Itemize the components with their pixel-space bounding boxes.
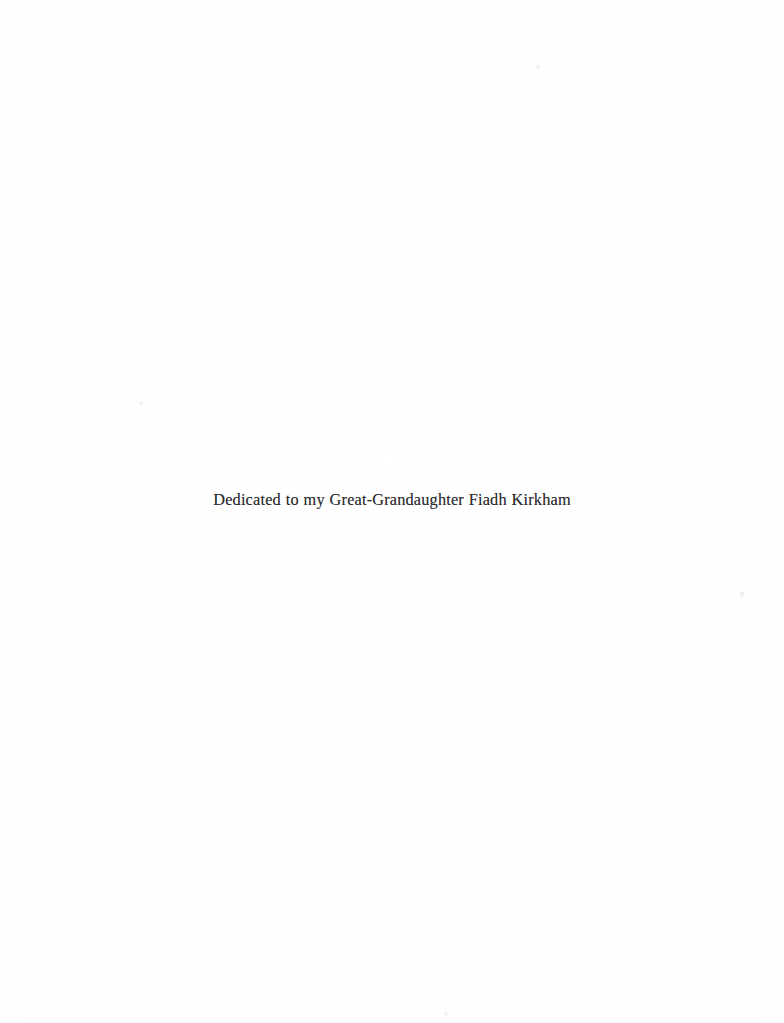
dust-speck-icon [139, 401, 143, 405]
dedication-text: Dedicated to my Great-Grandaughter Fiadh… [213, 489, 571, 511]
dust-speck-icon [444, 1011, 448, 1016]
paper-texture [0, 0, 784, 1023]
scanned-page: Dedicated to my Great-Grandaughter Fiadh… [0, 0, 784, 1023]
dust-speck-icon [536, 64, 540, 69]
dust-speck-icon [740, 591, 744, 597]
dedication-block: Dedicated to my Great-Grandaughter Fiadh… [0, 489, 784, 511]
